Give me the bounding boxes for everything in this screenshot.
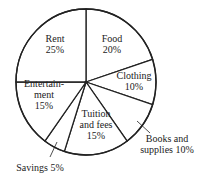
label-savings: Savings 5% xyxy=(16,162,64,173)
label-rent: Rent25% xyxy=(46,33,65,55)
pie-center-dot xyxy=(84,80,87,83)
label-books-and-supplies: Books andsupplies 10% xyxy=(140,133,194,155)
pie-chart: Food20%Clothing10%Books andsupplies 10%T… xyxy=(0,0,205,180)
label-food: Food20% xyxy=(102,33,123,55)
